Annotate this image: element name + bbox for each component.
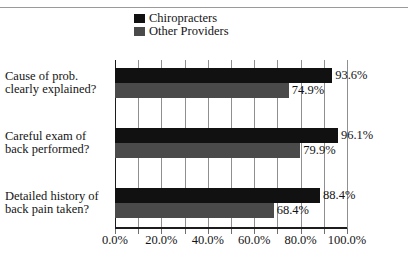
chart-figure: Chiropracters Other Providers Cause of p… (0, 0, 408, 270)
x-axis-label-200: 20.0% (145, 234, 177, 247)
x-axis-label-400: 40.0% (192, 234, 224, 247)
category-label-0-line2: clearly explained? (5, 83, 115, 96)
category-label-2: Detailed history of back pain taken? (5, 190, 115, 216)
x-axis-tick-labels: 0.0%20.0%40.0%60.0%80.0%100.0% (115, 0, 347, 270)
x-axis-label-1000: 100.0% (328, 234, 367, 247)
category-label-0: Cause of prob. clearly explained? (5, 70, 115, 96)
category-label-1-line2: back performed? (5, 143, 115, 156)
x-axis-label-00: 0.0% (102, 234, 128, 247)
category-label-1: Careful exam of back performed? (5, 130, 115, 156)
x-axis-label-600: 60.0% (238, 234, 270, 247)
gridline-100 (347, 60, 348, 228)
x-axis-label-800: 80.0% (284, 234, 316, 247)
category-label-2-line2: back pain taken? (5, 203, 115, 216)
